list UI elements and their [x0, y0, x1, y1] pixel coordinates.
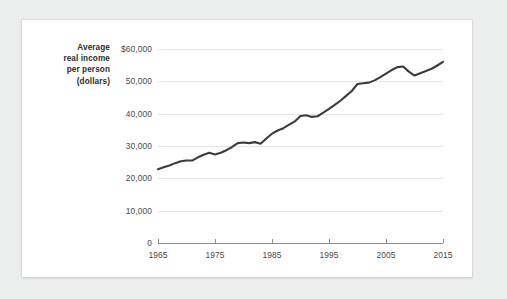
income-line [158, 62, 443, 169]
chart-figure: Average real income per person (dollars)… [0, 0, 507, 299]
series-line-chart [0, 0, 507, 299]
